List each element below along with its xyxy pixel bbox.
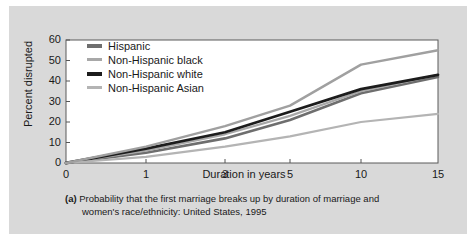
legend-label: Non-Hispanic white <box>108 68 203 80</box>
chart-legend: HispanicNon-Hispanic blackNon-Hispanic w… <box>87 39 204 95</box>
line-chart-plot <box>9 6 467 186</box>
legend-swatch <box>87 72 102 76</box>
legend-label: Non-Hispanic black <box>108 54 203 66</box>
legend-label: Non-Hispanic Asian <box>108 82 204 94</box>
y-tick-label: 50 <box>35 55 61 66</box>
legend-label: Hispanic <box>108 40 150 52</box>
caption-line-1: Probability that the first marriage brea… <box>79 193 379 204</box>
y-tick-label: 40 <box>35 75 61 86</box>
caption-line-2: women's race/ethnicity: United States, 1… <box>65 205 425 218</box>
legend-swatch <box>87 44 102 48</box>
figure-panel: 0102030405060 01351015 Percent disrupted… <box>9 6 467 234</box>
legend-item: Non-Hispanic Asian <box>87 81 204 94</box>
chart-area: 0102030405060 01351015 Percent disrupted… <box>9 6 467 186</box>
caption-tag: (a) <box>65 193 77 204</box>
x-axis-title: Duration in years <box>49 168 439 180</box>
y-tick-label: 10 <box>35 137 61 148</box>
figure-caption: (a) Probability that the first marriage … <box>65 192 425 218</box>
legend-item: Non-Hispanic black <box>87 53 204 66</box>
y-tick-label: 30 <box>35 96 61 107</box>
y-tick-label: 60 <box>35 34 61 45</box>
legend-item: Hispanic <box>87 39 204 52</box>
y-axis-title: Percent disrupted <box>22 29 34 139</box>
legend-swatch <box>87 86 102 89</box>
y-tick-label: 20 <box>35 116 61 127</box>
legend-swatch <box>87 58 102 61</box>
legend-item: Non-Hispanic white <box>87 67 204 80</box>
y-tick-label: 0 <box>35 157 61 168</box>
